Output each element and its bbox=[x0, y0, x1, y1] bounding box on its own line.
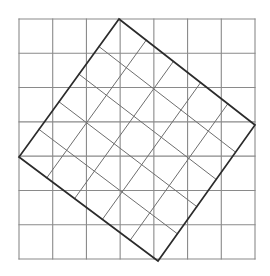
figure-root bbox=[0, 0, 270, 276]
canvas-background bbox=[0, 0, 270, 276]
geometry-canvas bbox=[0, 0, 270, 276]
